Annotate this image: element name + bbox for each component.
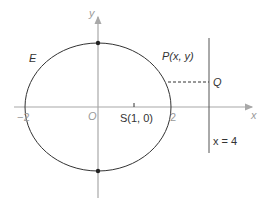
top-vertex-point bbox=[96, 41, 100, 45]
focus-label: S(1, 0) bbox=[120, 112, 153, 124]
tick-neg-2-label: −2 bbox=[17, 111, 30, 123]
bottom-vertex-point bbox=[96, 169, 100, 173]
point-q-label: Q bbox=[213, 76, 222, 88]
y-axis-label: y bbox=[88, 7, 96, 19]
point-p-label: P(x, y) bbox=[162, 50, 194, 62]
directrix-label: x = 4 bbox=[213, 135, 237, 147]
x-axis-label: x bbox=[250, 109, 257, 121]
tick-pos-2-label: 2 bbox=[170, 111, 176, 123]
origin-label: O bbox=[88, 110, 97, 122]
ellipse-diagram: E P(x, y) Q S(1, 0) x = 4 y x O −2 2 bbox=[0, 0, 270, 208]
curve-label: E bbox=[29, 52, 37, 64]
